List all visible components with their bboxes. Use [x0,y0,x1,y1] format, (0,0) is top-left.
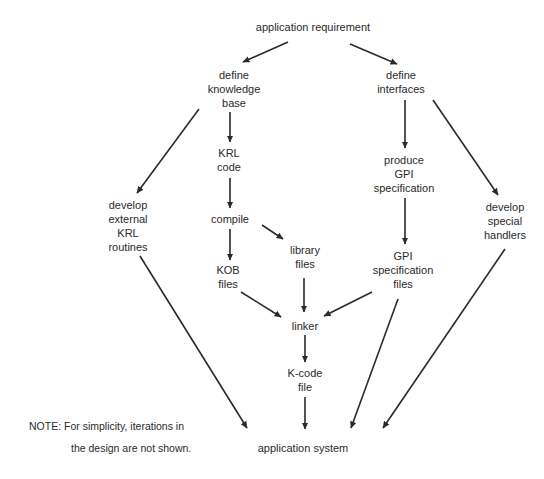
node-label: files [290,257,320,271]
note-line-2: the design are not shown. [71,441,191,455]
node-label: handlers [484,228,526,242]
node-label: application requirement [256,20,370,34]
edge-gpifiles-to-linker [324,292,372,316]
node-define-knowledge-base: define knowledge base [208,68,261,110]
node-label: base [208,96,261,110]
node-label: define [208,68,261,82]
node-label: routines [108,240,147,254]
node-label: specification [374,181,435,195]
node-label: develop [108,198,147,212]
node-label: library [290,243,320,257]
node-krl-code: KRL code [217,146,241,174]
node-application-system: application system [258,441,349,455]
edge-gpifiles-to-appsys [351,299,398,428]
node-compile: compile [211,212,249,226]
node-linker: linker [292,319,318,333]
node-develop-special-handlers: develop special handlers [484,200,526,242]
edge-kob-to-linker [241,292,281,317]
node-gpi-specification-files: GPI specification files [373,249,434,291]
edge-appreq-to-defineif [350,44,397,64]
node-label: define [377,68,425,82]
edge-compile-to-library [262,225,283,239]
node-label: files [216,277,239,291]
node-k-code-file: K-code file [288,366,323,394]
diagram-canvas: application requirement define knowledge… [0,0,544,479]
node-label: file [288,380,323,394]
edge-definekb-to-devext [137,109,199,193]
edge-defineif-to-devspecial [433,100,498,195]
node-label: special [484,214,526,228]
node-label: application system [258,441,349,455]
node-library-files: library files [290,243,320,271]
edge-appreq-to-definekb [243,42,288,62]
node-develop-external-krl-routines: develop external KRL routines [108,198,147,254]
node-label: K-code [288,366,323,380]
node-label: KRL [108,226,147,240]
node-label: KRL [217,146,241,160]
diagram-edges [0,0,544,479]
node-label: compile [211,212,249,226]
node-label: external [108,212,147,226]
node-label: develop [484,200,526,214]
node-label: knowledge [208,82,261,96]
node-label: code [217,160,241,174]
node-produce-gpi-specification: produce GPI specification [374,153,435,195]
node-label: interfaces [377,82,425,96]
note-line-1: NOTE: For simplicity, iterations in [29,419,184,433]
node-label: KOB [216,263,239,277]
node-kob-files: KOB files [216,263,239,291]
node-label: linker [292,319,318,333]
node-label: produce [374,153,435,167]
node-label: GPI [373,249,434,263]
node-label: GPI [374,167,435,181]
node-label: specification [373,263,434,277]
node-define-interfaces: define interfaces [377,68,425,96]
node-application-requirement: application requirement [256,20,370,34]
node-label: files [373,277,434,291]
